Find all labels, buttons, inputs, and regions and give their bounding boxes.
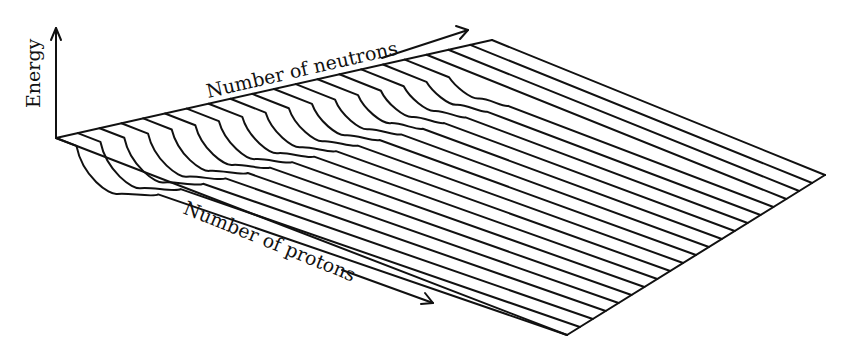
energy-profile-line: [405, 60, 774, 207]
energy-profile-line: [318, 79, 722, 239]
right-front-edge-line: [567, 175, 825, 335]
energy-profile-line: [470, 45, 812, 183]
neutrons-axis-label: Number of neutrons: [204, 36, 400, 101]
back-edge-line: [56, 40, 492, 138]
energy-surface-diagram: Energy Number of neutrons Number of prot…: [0, 0, 849, 355]
energy-profile-line: [296, 84, 709, 247]
energy-axis-label: Energy: [22, 38, 44, 108]
energy-profile-line: [448, 50, 799, 191]
proton-arrow-line: [342, 270, 433, 303]
energy-profile-line: [492, 40, 825, 175]
energy-profile-line: [339, 74, 734, 231]
surface-wireframe: [56, 40, 825, 335]
energy-profile-line: [100, 128, 593, 319]
